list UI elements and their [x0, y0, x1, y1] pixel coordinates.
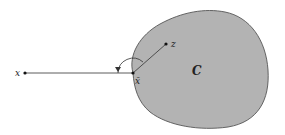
diagram-canvas: x x̄ z C [0, 0, 285, 135]
label-x: x [15, 68, 20, 78]
angle-arrowhead-icon [115, 67, 121, 72]
label-z: z [170, 39, 176, 49]
point-z [164, 42, 167, 45]
label-set-c: C [192, 64, 202, 78]
label-xbar: x̄ [135, 76, 140, 86]
point-xbar [131, 71, 134, 74]
point-x [23, 71, 26, 74]
